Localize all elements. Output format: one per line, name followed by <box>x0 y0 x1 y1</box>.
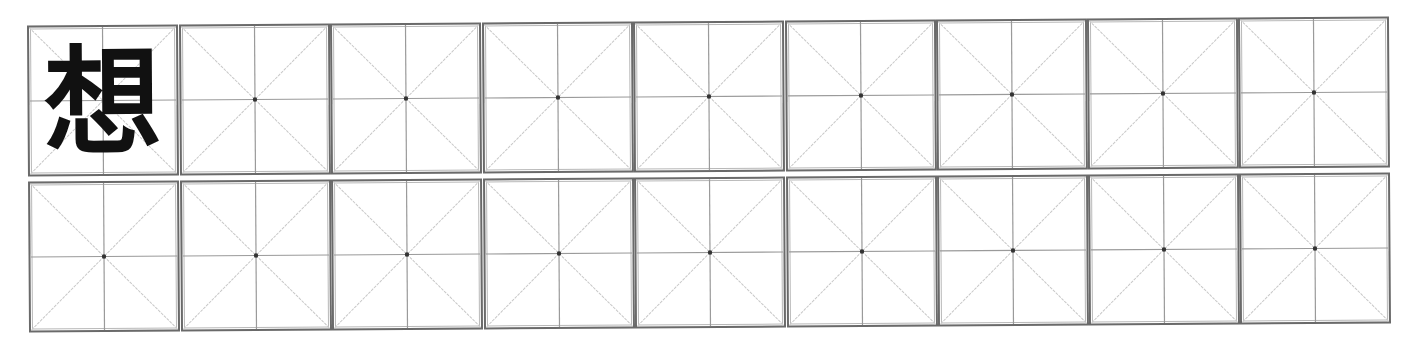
grid-cell[interactable] <box>633 20 785 172</box>
grid-cell[interactable] <box>483 177 635 329</box>
grid-cell[interactable]: 想 <box>27 25 179 177</box>
grid-cell[interactable] <box>1238 16 1390 168</box>
grid-cell[interactable] <box>179 24 331 176</box>
grid-cell[interactable] <box>330 23 482 175</box>
mi-grid-guides-icon <box>938 20 1086 168</box>
mi-grid-guides-icon <box>1090 175 1238 323</box>
mi-grid-guides-icon <box>788 177 936 325</box>
mi-grid-guides-icon <box>636 179 784 327</box>
mi-grid-guides-icon <box>484 24 632 172</box>
mi-grid-guides-icon <box>939 176 1087 324</box>
grid-cell[interactable] <box>1239 172 1391 324</box>
mi-grid-guides-icon <box>30 183 178 331</box>
mi-grid-guides-icon <box>635 23 783 171</box>
practice-sheet: 想 <box>27 16 1389 335</box>
mi-grid-guides-icon <box>181 26 329 174</box>
grid-row-2 <box>28 172 1389 332</box>
grid-cell[interactable] <box>331 178 483 330</box>
grid-cell[interactable] <box>785 19 937 171</box>
grid-row-1: 想 <box>27 16 1388 176</box>
mi-grid-guides-icon <box>182 182 330 330</box>
grid-cell[interactable] <box>180 180 332 332</box>
grid-cell[interactable] <box>482 21 634 173</box>
grid-cell[interactable] <box>28 181 180 333</box>
mi-grid-guides-icon <box>787 21 935 169</box>
mi-grid-guides-icon <box>1240 18 1388 166</box>
grid-cell[interactable] <box>1088 173 1240 325</box>
mi-grid-guides-icon <box>485 180 633 328</box>
grid-cell[interactable] <box>634 176 786 328</box>
grid-cell[interactable] <box>937 174 1089 326</box>
mi-grid-guides-icon <box>332 25 480 173</box>
grid-cell[interactable] <box>936 18 1088 170</box>
mi-grid-guides-icon <box>333 181 481 329</box>
practice-character: 想 <box>29 27 177 175</box>
mi-grid-guides-icon <box>1241 174 1389 322</box>
grid-cell[interactable] <box>1087 17 1239 169</box>
grid-cell[interactable] <box>786 175 938 327</box>
mi-grid-guides-icon <box>1089 19 1237 167</box>
